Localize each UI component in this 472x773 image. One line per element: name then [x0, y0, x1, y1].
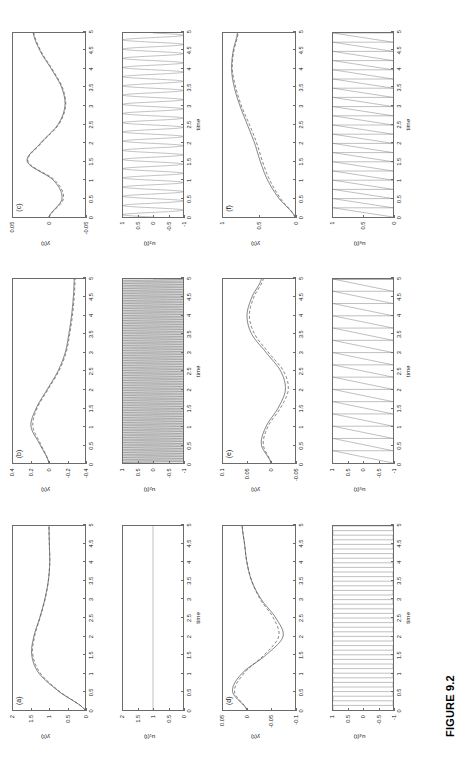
x-tick-label: 2 — [88, 388, 94, 391]
x-tick-label: 3.5 — [88, 577, 94, 585]
x-tick — [391, 370, 394, 371]
x-tick — [181, 673, 184, 674]
x-tick — [181, 598, 184, 599]
output-subplot: 00.511.522.533.544.550.050-0.05-0.1y(t)(… — [220, 509, 320, 755]
x-tick — [391, 296, 394, 297]
x-tick — [181, 105, 184, 106]
rotated-figure-canvas: 00.511.522.533.544.5521.510.50y(t)(a)00.… — [0, 0, 472, 773]
input-subplot: 00.511.522.533.544.5510.50-0.5-1u₂(t)tim… — [120, 262, 208, 508]
x-tick-label: 3.5 — [396, 330, 402, 338]
y-tick — [153, 708, 154, 711]
output-y-axis-label: y(t) — [16, 734, 76, 741]
x-tick-label: 3.5 — [186, 577, 192, 585]
x-tick-label: 4.5 — [186, 540, 192, 548]
x-tick-label: 5 — [186, 277, 192, 280]
y-tick — [222, 215, 223, 218]
x-tick-label: 0 — [186, 216, 192, 219]
y-tick — [247, 461, 248, 464]
output-subplot: 00.511.522.533.544.550.050-0.05y(t)(c) — [10, 16, 110, 262]
x-tick — [181, 561, 184, 562]
x-tick-label: 1.5 — [396, 158, 402, 166]
y-tick-label: 0 — [46, 222, 52, 225]
x-tick — [391, 179, 394, 180]
x-tick — [83, 691, 86, 692]
x-tick-label: 1 — [396, 426, 402, 429]
y-tick-label: 0 — [360, 715, 366, 718]
x-tick-label: 5 — [88, 30, 94, 33]
x-tick — [293, 691, 296, 692]
x-tick-label: 3.5 — [186, 84, 192, 92]
x-tick-label: 3 — [186, 105, 192, 108]
x-tick-label: 0.5 — [396, 689, 402, 697]
x-tick — [391, 352, 394, 353]
y-tick — [271, 708, 272, 711]
x-tick-label: 3 — [298, 598, 304, 601]
x-tick-label: 2.5 — [186, 614, 192, 622]
x-tick — [293, 161, 296, 162]
x-tick — [391, 617, 394, 618]
y-tick — [12, 708, 13, 711]
x-tick-label: 3.5 — [396, 577, 402, 585]
panel-tag: (c) — [15, 204, 22, 212]
y-tick-label: -0.1 — [293, 715, 299, 725]
figure-caption: FIGURE 9.2 — [444, 675, 456, 737]
y-tick-label: -0.05 — [83, 222, 89, 235]
x-tick-label: 0.5 — [186, 689, 192, 697]
input-plot-area — [332, 32, 394, 218]
panel-tag: (a) — [15, 696, 22, 705]
x-tick-label: 4.5 — [298, 540, 304, 548]
output-plot-area — [12, 525, 86, 711]
x-tick-label: 5 — [298, 523, 304, 526]
x-tick — [391, 654, 394, 655]
y-tick — [271, 461, 272, 464]
x-tick-label: 0 — [186, 463, 192, 466]
x-tick — [181, 352, 184, 353]
y-tick-label: -1 — [181, 468, 187, 473]
output-y-axis-label: y(t) — [16, 487, 76, 494]
input-x-axis-label: time — [404, 278, 411, 464]
y-tick-label: 0.05 — [244, 468, 250, 479]
output-plot-area — [222, 278, 296, 464]
panel-tag: (b) — [15, 450, 22, 459]
x-tick — [181, 49, 184, 50]
x-tick — [391, 543, 394, 544]
x-tick — [181, 296, 184, 297]
x-tick — [293, 352, 296, 353]
x-tick-label: 4 — [88, 314, 94, 317]
output-curve-solid — [232, 33, 295, 217]
output-curve-solid — [27, 33, 65, 217]
x-tick — [83, 333, 86, 334]
x-tick-label: 2 — [186, 142, 192, 145]
x-tick — [391, 580, 394, 581]
x-tick-label: 0 — [186, 709, 192, 712]
panel-b: 00.511.522.533.544.550.40.20-0.2-0.4y(t)… — [8, 262, 218, 509]
y-tick — [138, 215, 139, 218]
x-tick — [293, 86, 296, 87]
input-x-axis-label: time — [404, 32, 411, 218]
x-tick — [293, 179, 296, 180]
panel-tag: (e) — [225, 450, 232, 459]
output-curve-solid — [233, 526, 284, 710]
y-tick — [394, 708, 395, 711]
output-curve-solid — [31, 279, 74, 463]
x-tick — [293, 277, 296, 278]
y-tick — [86, 215, 87, 218]
input-x-axis-label: time — [194, 32, 201, 218]
input-waveform — [333, 526, 393, 710]
output-y-axis-label: y(t) — [226, 487, 286, 494]
x-tick-label: 0 — [298, 216, 304, 219]
x-tick-label: 0.5 — [186, 195, 192, 203]
x-tick-label: 3 — [396, 351, 402, 354]
x-tick-label: 1.5 — [298, 405, 304, 413]
x-tick — [181, 580, 184, 581]
x-tick-label: 1 — [396, 179, 402, 182]
x-tick — [293, 524, 296, 525]
x-tick-label: 3 — [396, 105, 402, 108]
input-x-axis-label: time — [404, 525, 411, 711]
input-y-axis-label: u₅(t) — [330, 487, 390, 494]
y-tick-label: 0.2 — [28, 468, 34, 476]
x-tick-label: 4 — [186, 67, 192, 70]
input-subplot: 00.511.522.533.544.5510.50u₆(t)time — [330, 16, 418, 262]
y-tick-label: 1.5 — [135, 715, 141, 723]
panel-tag: (f) — [225, 205, 232, 212]
